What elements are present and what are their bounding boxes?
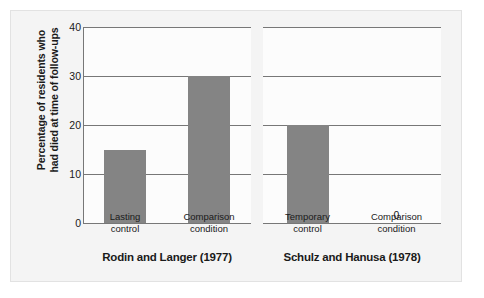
y-tick-30: 30 [69,70,81,82]
category-line-1: Lasting [83,211,167,223]
bar-temporary-control[interactable] [287,125,329,223]
bar-comparison-condition-rodin[interactable] [188,76,230,223]
chart-panel-schulz-hanusa: 0 [263,27,441,223]
bars-panel-0 [83,27,251,223]
y-axis-title-line-1: Percentage of residents who [35,30,48,170]
category-line-2: control [263,223,352,235]
bar-slot-lasting-control [83,27,167,223]
panel-title-schulz-hanusa: Schulz and Hanusa (1978) [263,251,441,267]
category-line-1: Comparison [167,211,251,223]
category-line-2: condition [352,223,441,235]
category-labels-panel-0: Lasting control Comparison condition [83,211,251,245]
plot-area-panel-1: 0 [263,27,441,223]
y-tick-20: 20 [69,119,81,131]
plot-area-panel-0 [83,27,251,223]
y-tick-0: 0 [75,217,81,229]
category-label-temporary-control: Temporary control [263,211,352,245]
category-line-1: Comparison [352,211,441,223]
category-label-lasting-control: Lasting control [83,211,167,245]
y-tick-10: 10 [69,168,81,180]
bar-slot-temporary-control [263,27,352,223]
category-line-1: Temporary [263,211,352,223]
bar-slot-comparison-condition-1: 0 [352,27,441,223]
bars-panel-1: 0 [263,27,441,223]
category-label-comparison-condition-schulz: Comparison condition [352,211,441,245]
category-labels-panel-1: Temporary control Comparison condition [263,211,441,245]
category-line-2: condition [167,223,251,235]
bar-slot-comparison-condition-0 [167,27,251,223]
y-tick-40: 40 [69,21,81,33]
category-label-comparison-condition-rodin: Comparison condition [167,211,251,245]
chart-panel-rodin-langer [83,27,251,223]
panel-title-rodin-langer: Rodin and Langer (1977) [83,251,251,267]
y-axis-tick-labels: 0 10 20 30 40 [57,27,81,223]
category-line-2: control [83,223,167,235]
chart-figure: Percentage of residents who had died at … [10,10,462,282]
